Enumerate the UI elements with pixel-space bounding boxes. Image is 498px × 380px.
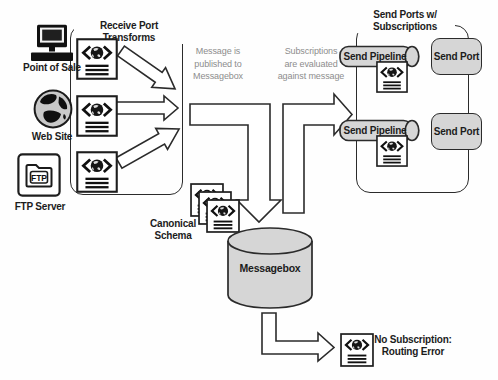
pos-terminal-icon [30, 24, 74, 62]
ftp-folder-icon: FTP [17, 153, 61, 197]
pipeline-document-icon [376, 61, 408, 93]
ftp-icon-text: FTP [31, 173, 47, 183]
arrow-messagebox-to-routing-error [262, 313, 334, 361]
note-subscriptions-evaluated: Subscriptions are evaluated against mess… [274, 45, 348, 83]
note-message-published: Message is published to Messagebox [184, 45, 252, 83]
routing-error-document-icon [340, 333, 374, 367]
pipeline-document-icon [376, 135, 408, 167]
arrow-messagebox-to-sendports [283, 94, 352, 213]
send-port-1: Send Port [431, 38, 482, 75]
messagebox-label: Messagebox [226, 262, 314, 274]
routing-error-label: No Subscription: Routing Error [370, 334, 456, 358]
source-label-ftp-server: FTP Server [0, 201, 80, 213]
schema-document-icon [76, 151, 118, 193]
canonical-schema-label: Canonical Schema [141, 218, 205, 242]
web-globe-icon [33, 89, 73, 129]
send-port-label: Send Port [434, 51, 479, 63]
source-label-web-site: Web Site [8, 131, 96, 143]
biztalk-messaging-diagram: Receive Port Transforms Send Ports w/ Su… [0, 0, 498, 380]
send-port-label: Send Port [434, 126, 479, 138]
source-label-point-of-sale: Point of Sale [8, 62, 96, 74]
send-group-title: Send Ports w/ Subscriptions [355, 9, 455, 33]
send-port-2: Send Port [431, 113, 482, 150]
